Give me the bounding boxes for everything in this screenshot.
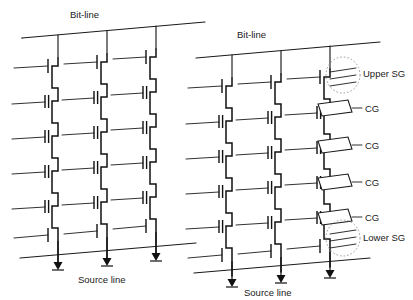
- nand-string-right-2: [236, 74, 287, 283]
- cell-right-3-row1: [287, 70, 320, 84]
- cell-right-2-row2: [236, 111, 272, 124]
- diagram-canvas: Bit-line Bit-line Source line Source lin…: [0, 0, 413, 300]
- cell-left-1-row5: [12, 200, 49, 213]
- nand-string-left-3: [111, 49, 162, 261]
- cell-right-1-row4: [186, 185, 223, 198]
- cell-right-1-row5: [186, 220, 223, 233]
- lower-sg-highlight-ellipse: [326, 220, 360, 256]
- ground-right-1: [226, 261, 238, 287]
- cell-left-1-row2: [12, 95, 49, 108]
- cell-left-1-row6: [14, 228, 48, 242]
- cell-left-2-row2: [62, 91, 98, 104]
- cell-left-3-row2: [111, 86, 147, 99]
- cell-right-1-row1: [188, 79, 222, 93]
- cell-right-2-row3: [236, 146, 272, 159]
- cell-right-1-row2: [186, 115, 223, 128]
- ground-right-3: [324, 252, 336, 278]
- cg-tab-2: [318, 137, 362, 153]
- cell-right-2-row6: [238, 244, 271, 258]
- cell-right-3-row6: [287, 239, 320, 253]
- nand-string-left-2: [62, 54, 113, 266]
- cell-right-1-row6: [188, 248, 222, 262]
- cell-right-3-row5: [285, 211, 321, 224]
- sourceline-right-label: Source line: [244, 287, 292, 298]
- sourceline-left-label: Source line: [78, 274, 126, 285]
- cell-left-2-row4: [62, 161, 98, 174]
- cg-label-1: CG: [365, 103, 379, 114]
- nand-string-left-1: [12, 58, 64, 270]
- bitline-right-drops: [232, 46, 330, 78]
- cg-tab-3: [318, 174, 362, 190]
- cell-left-3-row6: [113, 219, 146, 233]
- cg-tab-4: [318, 209, 362, 225]
- cell-right-2-row5: [236, 216, 272, 229]
- bitline-left-drops: [58, 26, 156, 58]
- cg-label-3: CG: [365, 177, 379, 188]
- cg-tab-1: [318, 100, 362, 116]
- cg-label-2: CG: [365, 140, 379, 151]
- cell-right-1-row3: [186, 150, 223, 163]
- cell-left-1-row3: [12, 130, 49, 143]
- cell-left-2-row6: [64, 224, 97, 238]
- cell-left-1-row1: [14, 59, 48, 73]
- cell-left-3-row1: [113, 50, 146, 64]
- cell-left-3-row5: [111, 191, 147, 204]
- cell-left-2-row3: [62, 126, 98, 139]
- cell-left-1-row4: [12, 165, 49, 178]
- bitline-left-label: Bit-line: [70, 9, 99, 20]
- nand-block-left: [12, 22, 205, 270]
- upper-sg-label: Upper SG: [363, 68, 405, 79]
- cell-right-3-row3: [285, 141, 321, 154]
- cell-right-2-row4: [236, 181, 272, 194]
- nand-array-diagram: Bit-line Bit-line Source line Source lin…: [0, 0, 413, 300]
- ground-right-2: [275, 257, 287, 283]
- sourceline-right-rail: [194, 258, 370, 273]
- bitline-left-rail: [22, 22, 205, 38]
- nand-block-right: [186, 42, 380, 287]
- lower-sg-label: Lower SG: [363, 232, 405, 243]
- sourceline-left-rail: [20, 243, 196, 258]
- cell-left-2-row5: [62, 196, 98, 209]
- cell-left-3-row3: [111, 121, 147, 134]
- nand-string-right-3: [285, 69, 336, 278]
- cell-left-3-row4: [111, 156, 147, 169]
- nand-string-right-1: [186, 78, 238, 287]
- bitline-right-rail: [196, 42, 380, 58]
- cell-right-3-row4: [285, 176, 321, 189]
- bitline-right-label: Bit-line: [237, 29, 266, 40]
- cell-left-2-row1: [64, 55, 97, 69]
- cell-right-2-row1: [238, 75, 271, 89]
- cell-right-3-row2: [285, 106, 321, 119]
- cg-label-4: CG: [365, 212, 379, 223]
